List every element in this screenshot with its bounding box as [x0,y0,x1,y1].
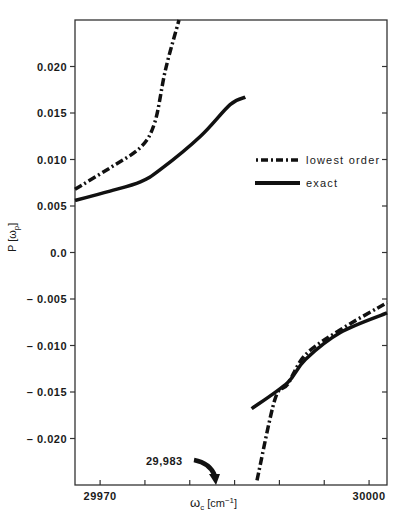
curve-lowest-order-branch-1 [75,20,179,189]
chart: 0.0200.0150.0100.0050.0– 0.005– 0.010– 0… [0,0,406,521]
y-tick-label: – 0.005 [27,293,67,305]
curve-exact-branch-2 [252,313,387,409]
x-tick-label: 29970 [84,490,117,502]
y-axis-ticks: 0.0200.0150.0100.0050.0– 0.005– 0.010– 0… [27,61,387,445]
annotation-29983: 29,983 [146,455,220,485]
y-tick-label: 0.010 [37,154,67,166]
x-axis-label: ωc [cm−1] [190,495,237,512]
curves [75,20,387,480]
curve-exact-branch-1 [75,97,245,200]
plot-frame [75,20,387,485]
y-tick-label: 0.020 [37,61,67,73]
legend: lowest order exact [255,154,380,189]
x-tick-label: 30000 [353,490,386,502]
legend-label-exact: exact [306,177,338,189]
y-tick-label: 0.0 [50,247,67,259]
annotation-label: 29,983 [146,455,183,467]
y-tick-label: – 0.020 [27,433,67,445]
annotation-arrow-icon [194,460,215,476]
y-tick-label: 0.005 [37,200,67,212]
annotation-arrowhead-icon [209,474,220,485]
y-tick-label: – 0.010 [27,340,67,352]
y-tick-label: 0.015 [37,107,67,119]
legend-label-lowest-order: lowest order [306,154,380,166]
y-tick-label: – 0.015 [27,386,67,398]
y-axis-label: P [ωp] [6,223,21,252]
